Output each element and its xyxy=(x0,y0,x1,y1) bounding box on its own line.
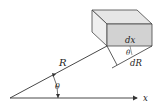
label-x-axis: x xyxy=(143,93,148,103)
box-edge-theta-line xyxy=(130,46,132,55)
projection-line xyxy=(107,46,117,65)
diagram-canvas: R θ dx θ dR x xyxy=(0,0,162,107)
volume-element-box xyxy=(92,10,152,46)
label-R: R xyxy=(58,57,67,68)
label-theta-origin: θ xyxy=(55,82,60,91)
label-theta-box: θ xyxy=(126,49,131,57)
label-dR: dR xyxy=(130,58,142,68)
theta-arrow-down xyxy=(56,94,60,98)
label-dx: dx xyxy=(125,35,135,45)
